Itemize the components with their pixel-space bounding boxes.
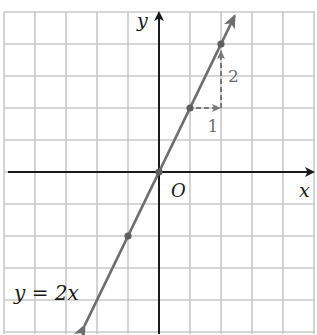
x-axis-label: x: [299, 179, 310, 201]
point: [155, 168, 162, 175]
y-axis-label: y: [136, 9, 148, 31]
run-label: 1: [208, 116, 219, 136]
point: [217, 40, 224, 47]
point: [124, 232, 131, 239]
point: [186, 104, 193, 111]
origin-label: O: [171, 180, 186, 201]
equation-label: y = 2x: [13, 281, 79, 305]
coordinate-plane: y x O y = 2x 1 2: [0, 0, 317, 335]
rise-label: 2: [228, 66, 239, 86]
